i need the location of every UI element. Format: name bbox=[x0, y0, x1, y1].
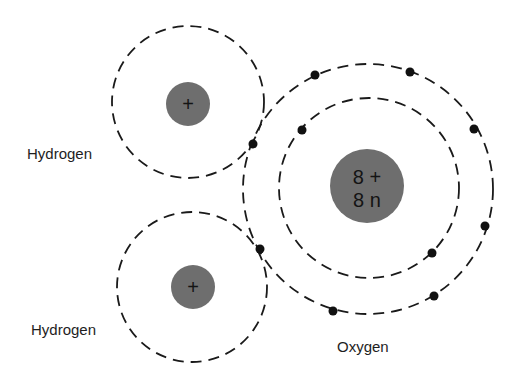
electron-inner bbox=[428, 249, 437, 258]
electron-outer bbox=[311, 71, 320, 80]
orbits bbox=[112, 26, 493, 362]
hydrogen-bottom-label: Hydrogen bbox=[31, 321, 96, 338]
hydrogen-bottom-nucleus-charge: + bbox=[187, 276, 199, 298]
electron-outer bbox=[329, 307, 338, 316]
electron-shared bbox=[256, 245, 265, 254]
hydrogen-top-label: Hydrogen bbox=[27, 145, 92, 162]
electron-outer bbox=[481, 222, 490, 231]
electron-inner bbox=[298, 126, 307, 135]
water-molecule-diagram: + Hydrogen + Hydrogen 8 + 8 n Oxygen bbox=[0, 0, 515, 379]
electron-shared bbox=[249, 140, 258, 149]
oxygen-nucleus-protons: 8 + bbox=[353, 166, 381, 188]
electron-outer bbox=[406, 68, 415, 77]
oxygen-nucleus-neutrons: 8 n bbox=[353, 189, 381, 211]
hydrogen-top-nucleus-charge: + bbox=[182, 93, 194, 115]
electron-outer bbox=[470, 125, 479, 134]
oxygen-label: Oxygen bbox=[337, 338, 389, 355]
electron-outer bbox=[430, 292, 439, 301]
